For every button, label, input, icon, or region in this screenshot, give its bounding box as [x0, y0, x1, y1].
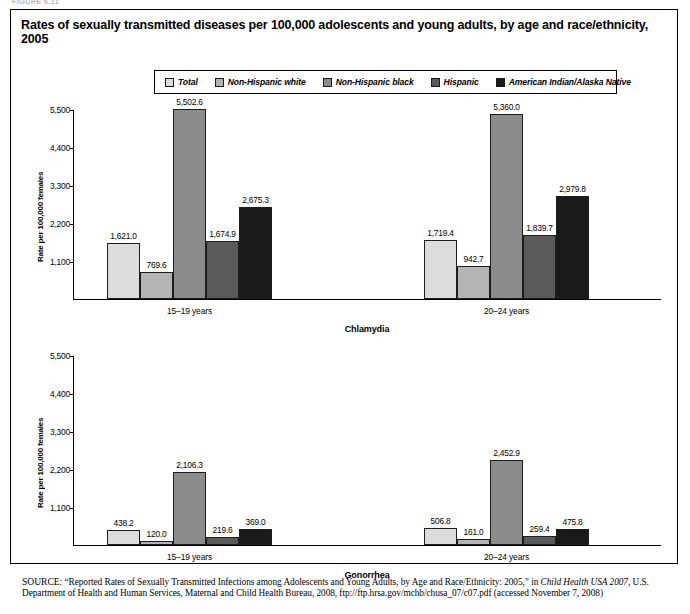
- legend-swatch-icon: [215, 78, 224, 87]
- bar-value-label: 1,674.9: [209, 230, 236, 239]
- y-axis-tick-mark: [70, 148, 74, 149]
- legend-item-label: Total: [178, 77, 198, 87]
- bar: 5,360.0: [490, 110, 523, 299]
- legend-item: Non-Hispanic white: [215, 77, 306, 87]
- x-axis-group-label: 20–24 years: [424, 306, 589, 316]
- y-axis-tick-label: 1,100: [30, 504, 70, 512]
- bar: 2,979.8: [556, 110, 589, 299]
- bar: 369.0: [239, 356, 272, 545]
- bar-rect: [457, 266, 490, 299]
- y-axis-tick-label: 1,100: [30, 258, 70, 266]
- y-axis-tick-label: 3,300: [30, 182, 70, 190]
- legend-item: Non-Hispanic black: [323, 77, 414, 87]
- bar: 5,502.6: [173, 110, 206, 299]
- y-axis-tick-label: 4,400: [30, 144, 70, 152]
- legend-swatch-icon: [496, 78, 505, 87]
- bar: 2,452.9: [490, 356, 523, 545]
- bar-rect: [239, 529, 272, 545]
- bar: 1,719.4: [424, 110, 457, 299]
- bar-group: 1,719.4942.75,360.01,839.72,979.820–24 y…: [424, 110, 589, 299]
- bar-value-label: 1,719.4: [427, 229, 454, 238]
- figure-border-box: Rates of sexually transmitted diseases p…: [10, 9, 678, 564]
- figure-page: FIGURE 6.11 Rates of sexually transmitte…: [0, 0, 690, 614]
- plot-chlamydia: 1,1002,2003,3004,4005,5001,621.0769.65,5…: [73, 110, 661, 300]
- x-axis-group-label: 15–19 years: [107, 306, 272, 316]
- y-axis-tick-mark: [70, 470, 74, 471]
- bar: 2,106.3: [173, 356, 206, 545]
- y-axis-tick-label: 2,200: [30, 466, 70, 474]
- bar-rect: [206, 241, 239, 299]
- bar-rect: [140, 272, 173, 299]
- bar: 1,621.0: [107, 110, 140, 299]
- legend-item-label: American Indian/Alaska Native: [509, 77, 631, 87]
- y-axis-tick-label: 5,500: [30, 352, 70, 360]
- legend-item-label: Non-Hispanic black: [336, 77, 414, 87]
- bar-value-label: 369.0: [246, 518, 266, 527]
- source-access-date: November 7, 2008): [531, 588, 603, 598]
- y-axis-tick-mark: [70, 262, 74, 263]
- bar: 769.6: [140, 110, 173, 299]
- bar-value-label: 438.2: [114, 519, 134, 528]
- legend-swatch-icon: [165, 78, 174, 87]
- bar-rect: [424, 528, 457, 546]
- bar: 120.0: [140, 356, 173, 545]
- source-note: SOURCE: “Reported Rates of Sexually Tran…: [22, 577, 677, 598]
- legend-swatch-icon: [323, 78, 332, 87]
- bar-value-label: 2,452.9: [493, 449, 520, 458]
- bar-value-label: 120.0: [147, 530, 167, 539]
- y-axis-tick-mark: [70, 508, 74, 509]
- bar-value-label: 161.0: [464, 528, 484, 537]
- legend-item-label: Hispanic: [444, 77, 479, 87]
- bar-rect: [107, 530, 140, 545]
- bar-value-label: 2,106.3: [176, 461, 203, 470]
- bar-rect: [173, 472, 206, 545]
- bar: 219.6: [206, 356, 239, 545]
- bar-rect: [239, 207, 272, 299]
- source-publication: Child Health USA 2007: [541, 577, 628, 587]
- legend-swatch-icon: [431, 78, 440, 87]
- y-axis-tick-mark: [70, 186, 74, 187]
- bar-value-label: 769.6: [147, 261, 167, 270]
- panel-chlamydia: Rate per 100,000 females 1,1002,2003,300…: [11, 102, 679, 332]
- bar-rect: [457, 539, 490, 545]
- bar-rect: [140, 541, 173, 545]
- bar-value-label: 5,360.0: [493, 103, 520, 112]
- y-axis-tick-mark: [70, 432, 74, 433]
- bar: 1,674.9: [206, 110, 239, 299]
- bar-rect: [523, 536, 556, 545]
- figure-number-cut: FIGURE 6.11: [12, 0, 59, 6]
- bar-value-label: 2,675.3: [242, 196, 269, 205]
- bar-rect: [490, 114, 523, 299]
- bar-value-label: 259.4: [530, 525, 550, 534]
- y-axis-tick-label: 4,400: [30, 390, 70, 398]
- legend-item: Hispanic: [431, 77, 479, 87]
- y-axis-tick-mark: [70, 110, 74, 111]
- bar-rect: [523, 235, 556, 299]
- bar-value-label: 475.8: [563, 518, 583, 527]
- bar-value-label: 506.8: [431, 517, 451, 526]
- bar-rect: [206, 537, 239, 545]
- bar-rect: [556, 196, 589, 299]
- bar-rect: [107, 243, 140, 299]
- x-axis-group-label: 20–24 years: [424, 552, 589, 562]
- bar: 438.2: [107, 356, 140, 545]
- bar-rect: [490, 460, 523, 545]
- chart-legend: TotalNon-Hispanic whiteNon-Hispanic blac…: [154, 70, 617, 94]
- figure-title: Rates of sexually transmitted diseases p…: [21, 18, 661, 46]
- bar-value-label: 942.7: [464, 255, 484, 264]
- bar: 942.7: [457, 110, 490, 299]
- bar: 2,675.3: [239, 110, 272, 299]
- bar-group: 506.8161.02,452.9259.4475.820–24 years: [424, 356, 589, 545]
- x-axis-group-label: 15–19 years: [107, 552, 272, 562]
- plot-gonorrhea: 1,1002,2003,3004,4005,500438.2120.02,106…: [73, 356, 661, 546]
- bar-rect: [424, 240, 457, 299]
- bar-value-label: 1,839.7: [526, 224, 553, 233]
- legend-item: American Indian/Alaska Native: [496, 77, 631, 87]
- bar-rect: [173, 109, 206, 299]
- bar-value-label: 219.6: [213, 526, 233, 535]
- bar-group: 1,621.0769.65,502.61,674.92,675.315–19 y…: [107, 110, 272, 299]
- bar-value-label: 5,502.6: [176, 98, 203, 107]
- bar: 161.0: [457, 356, 490, 545]
- y-axis-tick-mark: [70, 394, 74, 395]
- source-prefix: SOURCE:: [22, 576, 62, 587]
